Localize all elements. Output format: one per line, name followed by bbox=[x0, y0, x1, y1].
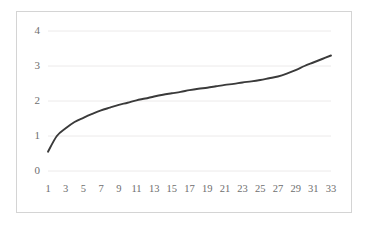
y-tick-label-1: 1 bbox=[22, 130, 40, 141]
x-tick-label-33: 33 bbox=[321, 183, 341, 194]
y-tick-label-0: 0 bbox=[22, 165, 40, 176]
y-tick-label-4: 4 bbox=[22, 25, 40, 36]
chart-figure: 01234 13579111315171921232527293133 bbox=[0, 0, 367, 232]
y-tick-label-2: 2 bbox=[22, 95, 40, 106]
y-tick-label-3: 3 bbox=[22, 60, 40, 71]
